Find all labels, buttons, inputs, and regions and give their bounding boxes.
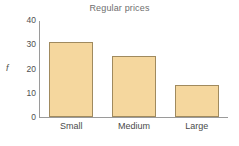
x-axis-line <box>39 117 228 118</box>
plot-area <box>40 20 228 117</box>
y-tick-label: 20 <box>2 64 36 74</box>
x-tick-label-large: Large <box>165 121 228 131</box>
y-tick-label: 40 <box>2 15 36 25</box>
bar-large <box>175 85 219 117</box>
x-tick-label-medium: Medium <box>103 121 166 131</box>
bar-small <box>49 42 93 117</box>
y-tick-label: 10 <box>2 88 36 98</box>
y-tick-label: 30 <box>2 39 36 49</box>
y-axis-tick-labels: 010203040 <box>0 0 36 146</box>
x-tick-label-small: Small <box>40 121 103 131</box>
bar-medium <box>112 56 156 117</box>
y-tick-label: 0 <box>2 112 36 122</box>
bar-chart: Regular prices f 010203040 SmallMediumLa… <box>0 0 239 146</box>
